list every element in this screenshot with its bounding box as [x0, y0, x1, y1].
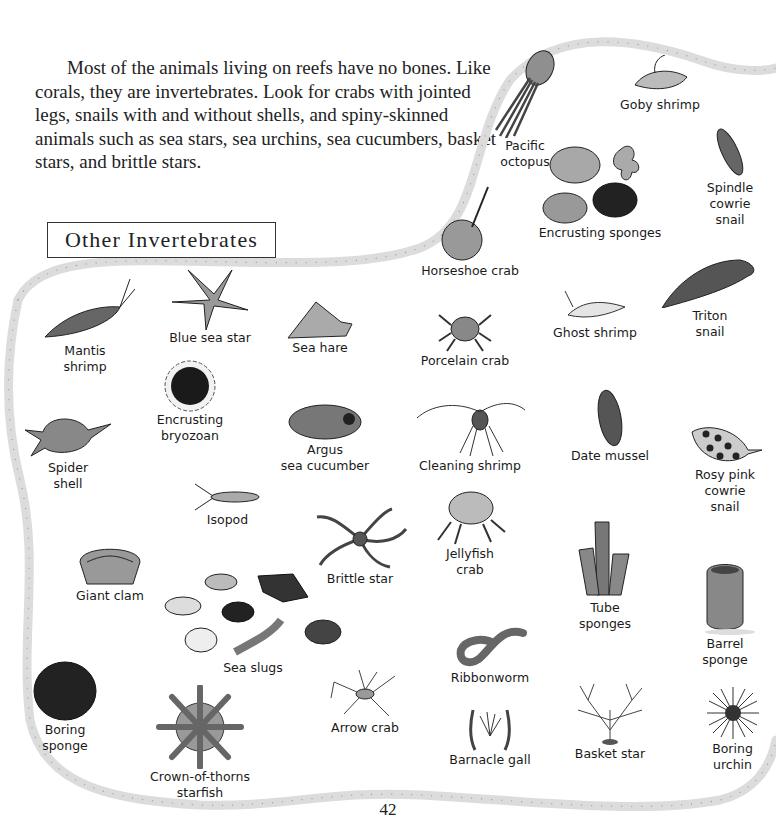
isopod-illustration [193, 482, 263, 512]
label: Sea hare [275, 340, 365, 356]
label: Triton snail [655, 308, 765, 340]
animal-boring-sponge: Boring sponge [20, 660, 110, 754]
animal-rosy-pink-cowrie: Rosy pink cowrie snail [675, 422, 775, 515]
label: Isopod [185, 512, 270, 528]
crown-of-thorns-illustration [155, 685, 245, 769]
animal-sea-slugs: Sea slugs [158, 572, 348, 676]
argus-sea-cucumber-illustration [287, 402, 363, 442]
sea-hare-illustration [286, 300, 354, 340]
spider-shell-illustration [23, 410, 113, 460]
animal-spider-shell: Spider shell [18, 410, 118, 492]
animal-barrel-sponge: Barrel sponge [680, 562, 770, 668]
ribbonworm-illustration [453, 625, 528, 670]
label: Cleaning shrimp [410, 458, 530, 474]
ghost-shrimp-illustration [563, 285, 628, 325]
tube-sponges-illustration [577, 520, 633, 600]
animal-blue-sea-star: Blue sea star [155, 268, 265, 346]
porcelain-crab-illustration [435, 305, 495, 353]
label: Encrusting sponges [530, 225, 670, 241]
animal-arrow-crab: Arrow crab [320, 668, 410, 736]
animal-jellyfish-crab: Jellyfish crab [420, 488, 520, 578]
label: Encrusting bryozoan [140, 412, 240, 444]
label: Giant clam [60, 588, 160, 604]
octopus-illustration [490, 48, 560, 138]
label: Argus sea cucumber [270, 442, 380, 474]
animal-encrusting-bryozoan: Encrusting bryozoan [140, 360, 240, 444]
date-mussel-illustration [593, 388, 627, 448]
page-number: 42 [0, 800, 776, 820]
brittle-star-illustration [312, 505, 408, 571]
encrusting-bryozoan-illustration [162, 360, 218, 412]
animal-encrusting-sponges: Encrusting sponges [530, 140, 670, 241]
barnacle-gall-illustration [465, 708, 515, 752]
animal-date-mussel: Date mussel [565, 388, 655, 464]
animal-spindle-cowrie: Spindle cowrie snail [690, 125, 770, 228]
animal-crown-of-thorns: Crown-of-thorns starfish [140, 685, 260, 801]
label: Barrel sponge [680, 636, 770, 668]
label: Goby shrimp [605, 97, 715, 113]
blue-sea-star-illustration [170, 268, 250, 330]
label: Date mussel [565, 448, 655, 464]
label: Boring urchin [690, 741, 775, 773]
mantis-shrimp-illustration [35, 275, 135, 343]
boring-urchin-illustration [705, 685, 761, 741]
cleaning-shrimp-illustration [415, 398, 525, 458]
rosy-pink-cowrie-illustration [688, 422, 763, 467]
animal-giant-clam: Giant clam [60, 540, 160, 604]
barrel-sponge-illustration [695, 562, 755, 636]
animal-boring-urchin: Boring urchin [690, 685, 775, 773]
label: Ghost shrimp [545, 325, 645, 341]
label: Mantis shrimp [30, 343, 140, 375]
sea-slugs-illustration [163, 572, 343, 660]
horseshoe-crab-illustration [440, 185, 500, 263]
label: Rosy pink cowrie snail [675, 467, 775, 515]
label: Porcelain crab [415, 353, 515, 369]
animal-basket-star: Basket star [560, 680, 660, 762]
triton-snail-illustration [660, 258, 760, 308]
spindle-cowrie-illustration [710, 125, 750, 180]
label: Barnacle gall [440, 752, 540, 768]
animal-argus-sea-cucumber: Argus sea cucumber [270, 402, 380, 474]
label: Basket star [560, 746, 660, 762]
jellyfish-crab-illustration [433, 488, 508, 546]
animal-ribbonworm: Ribbonworm [440, 625, 540, 686]
animal-triton-snail: Triton snail [655, 258, 765, 340]
arrow-crab-illustration [329, 668, 401, 720]
label: Blue sea star [155, 330, 265, 346]
label: Boring sponge [20, 722, 110, 754]
boring-sponge-illustration [32, 660, 98, 722]
label: Tube sponges [555, 600, 655, 632]
label: Horseshoe crab [420, 263, 520, 279]
animal-horseshoe-crab: Horseshoe crab [420, 185, 520, 279]
animal-tube-sponges: Tube sponges [555, 520, 655, 632]
animal-cleaning-shrimp: Cleaning shrimp [410, 398, 530, 474]
animal-mantis-shrimp: Mantis shrimp [30, 275, 140, 375]
label: Spider shell [18, 460, 118, 492]
animal-barnacle-gall: Barnacle gall [440, 708, 540, 768]
label: Crown-of-thorns starfish [140, 769, 260, 801]
label: Spindle cowrie snail [690, 180, 770, 228]
section-title: Other Invertebrates [47, 222, 276, 258]
label: Jellyfish crab [420, 546, 520, 578]
animal-goby-shrimp: Goby shrimp [605, 55, 715, 113]
goby-shrimp-illustration [625, 55, 695, 97]
giant-clam-illustration [75, 540, 145, 588]
encrusting-sponges-illustration [540, 140, 660, 225]
animal-ghost-shrimp: Ghost shrimp [545, 285, 645, 341]
label: Ribbonworm [440, 670, 540, 686]
animal-porcelain-crab: Porcelain crab [415, 305, 515, 369]
basket-star-illustration [568, 680, 652, 746]
animal-isopod: Isopod [185, 482, 270, 528]
animal-sea-hare: Sea hare [275, 300, 365, 356]
label: Arrow crab [320, 720, 410, 736]
